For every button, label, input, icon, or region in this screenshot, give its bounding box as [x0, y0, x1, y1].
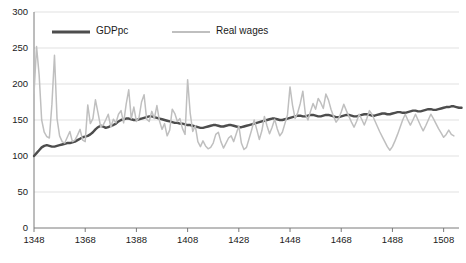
y-tick-label: 0	[2, 222, 28, 233]
chart-container: 050100150200250300 134813681388140814281…	[0, 0, 466, 263]
y-tick-label: 150	[2, 114, 28, 125]
y-tick-label: 50	[2, 186, 28, 197]
legend-label-2: Real wages	[216, 25, 268, 36]
x-tick-label: 1408	[171, 234, 205, 245]
chart-plot	[0, 0, 466, 263]
x-tick-label: 1468	[324, 234, 358, 245]
y-tick-label: 100	[2, 150, 28, 161]
x-tick-label: 1488	[375, 234, 409, 245]
y-tick-label: 300	[2, 6, 28, 17]
legend-label-1: GDPpc	[96, 25, 128, 36]
x-tick-label: 1448	[273, 234, 307, 245]
x-tick-label: 1348	[17, 234, 51, 245]
series-line-2	[34, 47, 454, 151]
y-tick-label: 250	[2, 42, 28, 53]
x-tick-label: 1508	[427, 234, 461, 245]
x-tick-label: 1388	[119, 234, 153, 245]
x-tick-label: 1428	[222, 234, 256, 245]
y-tick-label: 200	[2, 78, 28, 89]
x-tick-label: 1368	[68, 234, 102, 245]
